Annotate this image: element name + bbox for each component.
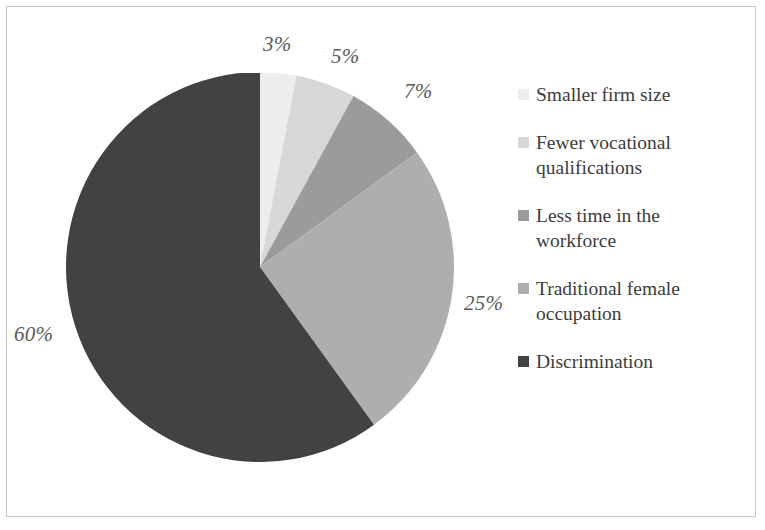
legend-item-label: Discrimination bbox=[536, 349, 653, 374]
slice-label-traditional-female: 25% bbox=[464, 291, 503, 316]
legend-item-label: Traditional female occupation bbox=[536, 276, 742, 326]
legend-item-label: Less time in the workforce bbox=[536, 203, 742, 253]
slice-label-smaller-firm-size: 3% bbox=[263, 32, 292, 57]
slice-label-less-time-in-workforce: 7% bbox=[404, 79, 433, 104]
legend-item-label: Fewer vocational qualifications bbox=[536, 130, 742, 180]
legend-swatch-icon bbox=[518, 137, 529, 148]
pie-chart bbox=[66, 73, 454, 463]
legend-item[interactable]: Fewer vocational qualifications bbox=[518, 130, 750, 180]
pie-chart-svg bbox=[66, 73, 454, 463]
pie-slice-group bbox=[66, 73, 454, 462]
legend-item[interactable]: Less time in the workforce bbox=[518, 203, 750, 253]
legend-item[interactable]: Discrimination bbox=[518, 349, 750, 374]
legend-swatch-icon bbox=[518, 283, 529, 294]
legend-item[interactable]: Smaller firm size bbox=[518, 82, 750, 107]
chart-legend: Smaller firm sizeFewer vocational qualif… bbox=[518, 82, 750, 397]
legend-swatch-icon bbox=[518, 210, 529, 221]
legend-item[interactable]: Traditional female occupation bbox=[518, 276, 750, 326]
slice-label-discrimination: 60% bbox=[14, 322, 53, 347]
legend-item-label: Smaller firm size bbox=[536, 82, 670, 107]
slice-label-fewer-vocational: 5% bbox=[331, 44, 360, 69]
legend-swatch-icon bbox=[518, 89, 529, 100]
legend-swatch-icon bbox=[518, 356, 529, 367]
chart-page: 3% 5% 7% 25% 60% Smaller firm sizeFewer … bbox=[0, 0, 765, 530]
